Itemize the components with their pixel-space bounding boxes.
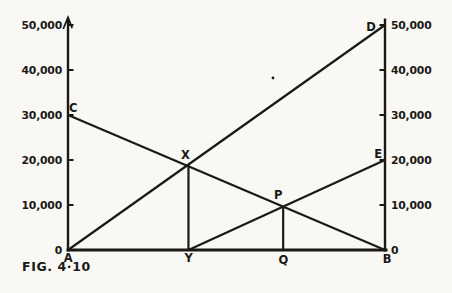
point-label-P: P bbox=[274, 188, 282, 202]
chart-canvas: 50,00050,00040,00040,00030,00030,00020,0… bbox=[0, 0, 452, 293]
right-axis-tick-label-50000: 50,000 bbox=[391, 19, 431, 32]
point-label-Q: Q bbox=[278, 253, 288, 267]
figure-caption: FIG. 4·10 bbox=[22, 259, 91, 274]
point-label-E: E bbox=[374, 147, 382, 161]
point-label-C: C bbox=[69, 101, 77, 115]
right-axis-tick-label-40000: 40,000 bbox=[391, 64, 431, 77]
line-AD bbox=[68, 25, 385, 250]
left-axis-tick-label-20000: 20,000 bbox=[22, 154, 62, 167]
point-label-D: D bbox=[366, 20, 375, 34]
right-axis-tick-label-30000: 30,000 bbox=[391, 109, 431, 122]
point-label-B: B bbox=[383, 252, 392, 266]
right-axis-tick-label-0: 0 bbox=[391, 244, 398, 257]
right-axis-tick-label-20000: 20,000 bbox=[391, 154, 431, 167]
scanned-figure-page: 50,00050,00040,00040,00030,00030,00020,0… bbox=[0, 0, 452, 293]
left-axis-tick-label-40000: 40,000 bbox=[22, 64, 62, 77]
right-axis-tick-label-10000: 10,000 bbox=[391, 199, 431, 212]
left-axis-tick-label-0: 0 bbox=[55, 244, 62, 257]
left-axis-tick-label-30000: 30,000 bbox=[22, 109, 62, 122]
point-label-Y: Y bbox=[183, 251, 193, 265]
point-label-X: X bbox=[181, 148, 190, 162]
ink-speck bbox=[272, 77, 275, 80]
left-axis-tick-label-10000: 10,000 bbox=[22, 199, 62, 212]
left-axis-tick-label-50000: 50,000 bbox=[22, 19, 62, 32]
